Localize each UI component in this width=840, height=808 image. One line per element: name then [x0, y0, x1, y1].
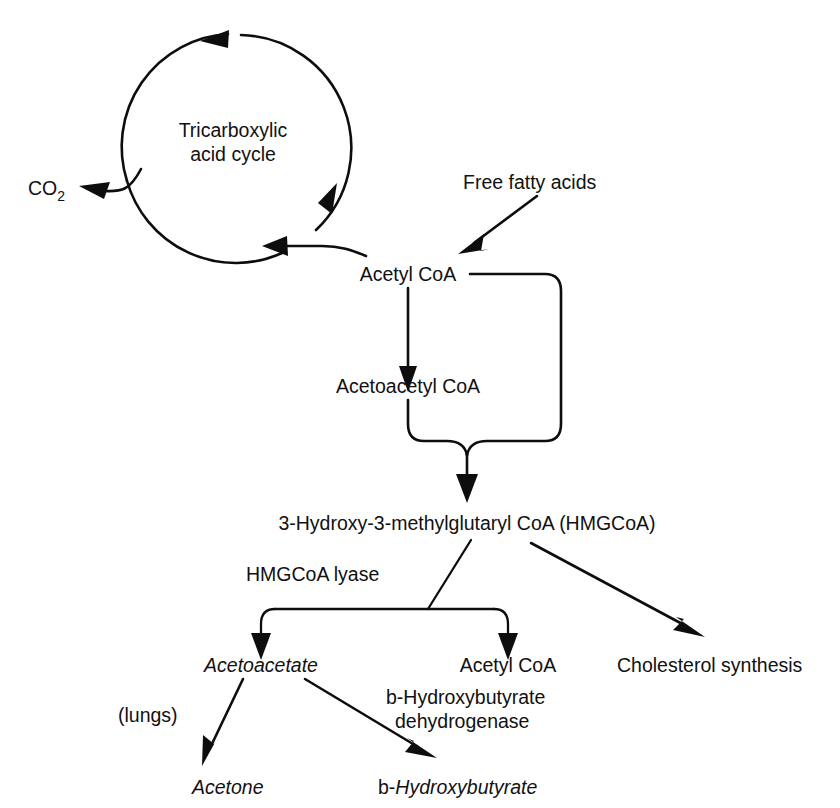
cholesterol-synthesis-label: Cholesterol synthesis — [617, 654, 803, 676]
bhb-dehydrogenase-label-line1: b-Hydroxybutyrate — [386, 686, 545, 708]
tca-cycle-label-line1: Tricarboxylic — [179, 119, 288, 141]
free-fatty-acids-label: Free fatty acids — [463, 171, 597, 193]
hmgcoa-lyase-right-arm — [494, 609, 508, 637]
cholesterol-synthesis-arrow-line — [531, 543, 686, 626]
bhb-dehydrogenase-label-line2: dehydrogenase — [395, 710, 529, 732]
acetyl-coa-top-label: Acetyl CoA — [360, 263, 456, 285]
tca-cycle-circle-arc-left-lower — [127, 181, 282, 263]
acetoacetyl-coa-merge-line — [408, 400, 467, 455]
bhb-label: b-Hydroxybutyrate — [378, 776, 537, 798]
lungs-label: (lungs) — [118, 704, 178, 726]
acetone-arrowhead — [202, 735, 218, 766]
co2-outflow-line — [104, 169, 141, 191]
hmgcoa-label: 3-Hydroxy-3-methylglutaryl CoA (HMGCoA) — [278, 512, 655, 534]
acetoacetyl-coa-label: Acetoacetyl CoA — [336, 375, 480, 397]
acetyl-coa-bypass-line — [467, 274, 561, 455]
merge-to-hmgcoa-arrowhead — [456, 474, 478, 503]
hmgcoa-lyase-diagonal-line — [428, 540, 471, 609]
hmgcoa-lyase-label: HMGCoA lyase — [246, 563, 379, 585]
co2-arrowhead — [79, 182, 110, 199]
tca-cycle-label-line2: acid cycle — [190, 143, 276, 165]
co2-label: CO2 — [28, 177, 65, 204]
free-fatty-acids-arrowhead — [458, 234, 489, 254]
pathway-graphics: Tricarboxylic acid cycle CO2 Free fatty … — [0, 0, 840, 808]
acetone-label: Acetone — [191, 776, 264, 798]
acetyl-coa-bottom-label: Acetyl CoA — [460, 654, 556, 676]
cholesterol-synthesis-arrowhead — [673, 617, 705, 637]
pathway-diagram: Tricarboxylic acid cycle CO2 Free fatty … — [0, 0, 840, 808]
acetyl-coa-to-tca-arrowhead — [262, 236, 288, 256]
hmgcoa-lyase-left-arm — [261, 609, 275, 637]
acetoacetate-to-acetone-line — [210, 679, 243, 748]
acetoacetate-label: Acetoacetate — [203, 654, 318, 676]
acetyl-coa-to-tca-line — [277, 246, 366, 256]
